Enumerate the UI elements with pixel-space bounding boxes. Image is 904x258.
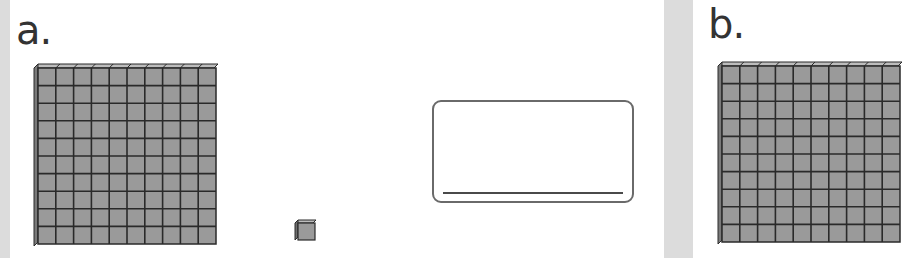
answer-line bbox=[443, 192, 623, 194]
problem-a-label: a. bbox=[16, 10, 51, 50]
problem-b-label: b. bbox=[708, 4, 744, 44]
answer-box[interactable] bbox=[432, 100, 634, 203]
hundreds-flat-icon bbox=[716, 60, 904, 244]
ones-cube-icon bbox=[294, 219, 318, 241]
page-gutter-left bbox=[0, 0, 10, 258]
column-divider bbox=[664, 0, 693, 258]
hundreds-flat-icon bbox=[32, 62, 220, 246]
